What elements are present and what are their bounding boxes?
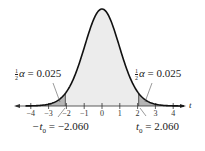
tick-label: −3 (44, 110, 53, 118)
left-tail-leader (53, 83, 60, 102)
right-critical-leader (140, 108, 146, 116)
tick-label: 2 (136, 110, 140, 118)
left-critical-value-label: −t0 = −2.060 (32, 121, 89, 135)
right-critical-value-label: t0 = 2.060 (136, 121, 179, 135)
tick-label: 0 (100, 110, 104, 118)
tick-label: −4 (27, 110, 36, 118)
right-tail-leader (145, 83, 152, 102)
right-tail-label: 12α = 0.025 (135, 68, 181, 81)
tick-label: 4 (171, 110, 175, 118)
tick-label: −2 (62, 110, 71, 118)
tick-label: −1 (80, 110, 89, 118)
left-tail-label: 12α = 0.025 (15, 68, 61, 81)
center-region (65, 9, 138, 106)
tick-label: 1 (118, 110, 122, 118)
x-axis-left-arrow-icon (14, 104, 20, 108)
axis-label-t: t (189, 101, 192, 110)
tick-label: 3 (153, 110, 157, 118)
